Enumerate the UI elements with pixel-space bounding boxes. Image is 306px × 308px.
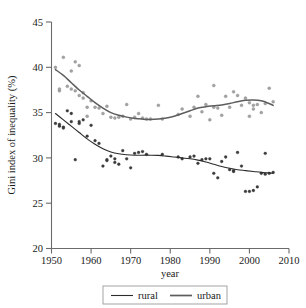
data-point: [66, 109, 69, 112]
x-axis-ticks: 1950196019701980199020002010: [41, 249, 300, 267]
data-point: [189, 115, 192, 118]
data-point: [264, 152, 267, 155]
data-point: [141, 150, 144, 153]
data-point: [208, 157, 211, 160]
data-point: [90, 124, 93, 127]
data-point: [232, 90, 235, 93]
legend-label-rural: rural: [138, 290, 158, 301]
figure-container: Gini index of inequality (%) 20253035404…: [0, 0, 306, 308]
data-point: [212, 84, 215, 87]
y-tick-label: 45: [33, 17, 44, 28]
data-point: [106, 158, 109, 161]
data-point: [62, 56, 65, 59]
data-point: [252, 107, 255, 110]
data-point: [78, 64, 81, 67]
data-point: [109, 155, 112, 158]
data-point: [240, 104, 243, 107]
data-point: [244, 97, 247, 100]
data-point: [193, 155, 196, 158]
data-point: [113, 161, 116, 164]
data-point: [58, 123, 61, 126]
data-point: [82, 118, 85, 121]
data-point: [137, 151, 140, 154]
data-point: [208, 118, 211, 121]
data-point: [105, 105, 108, 108]
data-point: [62, 127, 65, 130]
data-point: [94, 139, 97, 142]
rural-scatter-points: [54, 109, 275, 192]
data-point: [236, 94, 239, 97]
data-point: [236, 151, 239, 154]
x-axis-title: year: [161, 268, 180, 279]
y-tick-label: 30: [33, 153, 44, 164]
x-tick-label: 1950: [41, 255, 62, 266]
x-tick-label: 1960: [81, 255, 102, 266]
data-point: [86, 115, 89, 118]
urban-trend-line: [55, 70, 273, 120]
x-tick-label: 1990: [199, 255, 220, 266]
legend-label-urban: urban: [197, 290, 222, 301]
x-tick-label: 2010: [279, 255, 300, 266]
data-point: [256, 103, 259, 106]
data-point: [133, 152, 136, 155]
data-point: [228, 106, 231, 109]
x-tick-label: 2000: [239, 255, 260, 266]
data-point: [70, 112, 73, 115]
data-point: [248, 115, 251, 118]
data-point: [78, 94, 81, 97]
data-point: [58, 88, 61, 91]
data-point: [216, 107, 219, 110]
data-point: [220, 114, 223, 117]
data-point: [113, 157, 116, 160]
data-point: [224, 95, 227, 98]
data-point: [240, 165, 243, 168]
data-point: [244, 190, 247, 193]
rural-trend-line: [55, 114, 273, 174]
y-axis-title-group: Gini index of inequality (%): [6, 75, 18, 194]
data-point: [125, 157, 128, 160]
y-tick-label: 35: [33, 107, 44, 118]
data-point: [248, 190, 251, 193]
data-point: [82, 97, 85, 100]
data-point: [117, 163, 120, 166]
data-point: [54, 122, 57, 125]
data-point: [98, 142, 101, 145]
data-point: [74, 60, 77, 63]
data-point: [204, 103, 207, 106]
y-axis-title: Gini index of inequality (%): [6, 75, 18, 194]
y-tick-label: 20: [33, 243, 44, 254]
data-point: [200, 110, 203, 113]
y-tick-label: 25: [33, 198, 44, 209]
data-point: [70, 88, 73, 91]
data-point: [252, 104, 255, 107]
data-point: [129, 166, 132, 169]
data-point: [66, 85, 69, 88]
data-point: [272, 100, 275, 103]
data-point: [74, 89, 77, 92]
x-tick-label: 1980: [160, 255, 181, 266]
data-point: [102, 165, 105, 168]
data-point: [113, 117, 116, 120]
data-point: [125, 103, 128, 106]
data-point: [248, 101, 251, 104]
data-point: [101, 112, 104, 115]
data-point: [256, 185, 259, 188]
data-point: [78, 120, 81, 123]
data-point: [157, 104, 160, 107]
data-point: [94, 106, 97, 109]
data-point: [86, 135, 89, 138]
data-point: [260, 111, 263, 114]
data-point: [54, 66, 57, 69]
data-point: [70, 69, 73, 72]
data-point: [121, 149, 124, 152]
data-point: [109, 116, 112, 119]
data-point: [196, 95, 199, 98]
data-point: [252, 189, 255, 192]
legend: rural urban: [103, 286, 227, 304]
data-point: [216, 176, 219, 179]
data-point: [220, 160, 223, 163]
data-point: [86, 106, 89, 109]
data-point: [224, 156, 227, 159]
data-point: [181, 107, 184, 110]
data-point: [212, 172, 215, 175]
